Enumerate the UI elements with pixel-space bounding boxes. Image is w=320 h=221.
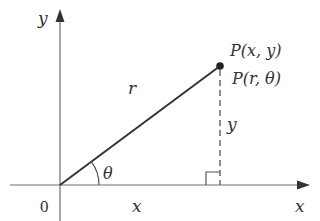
point-polar-label: P(r, θ) (231, 69, 281, 88)
x-axis-label: x (295, 196, 305, 216)
y-axis-label: y (37, 8, 48, 28)
radius-segment (60, 66, 220, 185)
radius-label: r (128, 78, 137, 98)
x-axis (10, 181, 310, 190)
point-cartesian-label: P(x, y) (229, 41, 281, 60)
y-axis-arrow-icon (56, 9, 65, 22)
right-angle-marker (206, 172, 220, 185)
origin-label: 0 (40, 197, 49, 216)
vertical-segment-label: y (226, 114, 237, 134)
horizontal-segment-label: x (132, 196, 142, 216)
point-p-dot (216, 62, 224, 70)
x-axis-arrow-icon (297, 181, 310, 190)
angle-arc (91, 162, 99, 185)
angle-label: θ (103, 164, 113, 183)
polar-coordinates-diagram: y x 0 r θ x y P(x, y) P(r, θ) (0, 0, 320, 221)
y-axis (56, 9, 65, 221)
